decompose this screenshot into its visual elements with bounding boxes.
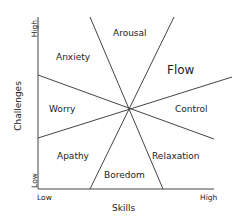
region-control: Control	[175, 104, 208, 114]
region-relaxation: Relaxation	[152, 151, 199, 161]
flow-boredom-line	[90, 17, 174, 189]
region-worry: Worry	[49, 104, 75, 114]
y-axis-low: Low	[30, 171, 39, 191]
x-axis-label: Skills	[112, 203, 135, 213]
region-flow: Flow	[167, 63, 194, 77]
y-axis-label: Challenges	[13, 78, 23, 134]
region-apathy: Apathy	[57, 151, 89, 161]
x-axis-high: High	[200, 193, 217, 202]
y-axis-high: High	[30, 19, 39, 39]
region-boredom: Boredom	[104, 170, 145, 180]
x-axis-low: Low	[37, 193, 52, 202]
region-anxiety: Anxiety	[56, 52, 90, 62]
region-arousal: Arousal	[113, 28, 147, 38]
arousal-relaxation-line	[90, 17, 163, 189]
